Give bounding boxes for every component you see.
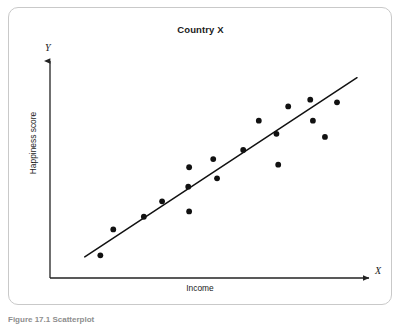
scatter-points-group (97, 97, 339, 258)
scatter-point (322, 134, 328, 140)
scatter-point (159, 198, 165, 204)
scatter-point (185, 184, 191, 190)
scatter-point (110, 227, 116, 233)
regression-trendline (85, 78, 357, 257)
scatter-point (256, 118, 262, 124)
scatter-point (240, 147, 246, 153)
y-axis-label: Happiness score (28, 88, 38, 198)
figure-caption: Figure 17.1 Scatterplot (8, 314, 398, 326)
scatter-point (186, 208, 192, 214)
trendline-group (85, 78, 357, 257)
scatter-point (285, 104, 291, 110)
scatter-point (307, 97, 313, 103)
axes-group (50, 61, 369, 278)
scatter-point (275, 162, 281, 168)
scatter-point (310, 118, 316, 124)
scatter-point (141, 214, 147, 220)
scatter-point (210, 156, 216, 162)
scatter-point (186, 164, 192, 170)
x-axis-label: Income (150, 283, 250, 293)
scatter-point (274, 131, 280, 137)
scatter-point (97, 252, 103, 258)
scatter-plot-canvas (0, 0, 401, 328)
figure-root: Country X Happiness score Income Y X Fig… (0, 0, 401, 328)
scatter-point (334, 99, 340, 105)
x-axis-letter: X (375, 265, 381, 276)
y-axis-letter: Y (45, 42, 51, 53)
scatter-point (214, 175, 220, 181)
